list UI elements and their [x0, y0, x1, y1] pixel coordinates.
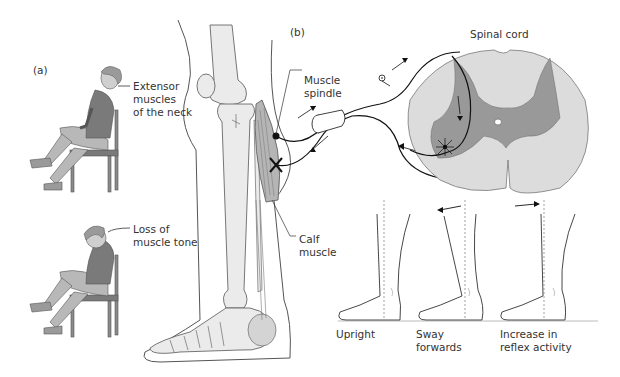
reflex-diagram: (a) Extensor muscles of the neck Loss of… [0, 0, 620, 377]
upright-stance [339, 200, 410, 320]
spinal-cord-section [408, 50, 588, 193]
loss-of-tone-label: Loss of muscle tone [133, 223, 198, 249]
upright-caption: Upright [336, 328, 375, 341]
reflex-activity-caption: Increase in reflex activity [500, 328, 572, 354]
sway-forwards-caption: Sway forwards [416, 328, 462, 354]
panel-b-label: (b) [290, 26, 305, 39]
calf-muscle-label: Calf muscle [299, 233, 337, 259]
extensor-muscles-label: Extensor muscles of the neck [133, 80, 192, 119]
leg-skeleton [144, 20, 302, 362]
spinal-cord-title: Spinal cord [470, 28, 529, 41]
illustration [0, 0, 620, 377]
upright-seated-figure [30, 66, 130, 192]
panel-a-label: (a) [33, 64, 48, 77]
sway-forwards-stance [419, 200, 483, 320]
reflex-correction-stance [501, 200, 575, 320]
slumped-seated-figure [30, 226, 130, 337]
stance-sequence [338, 200, 598, 321]
muscle-spindle-label: Muscle spindle [304, 74, 342, 100]
